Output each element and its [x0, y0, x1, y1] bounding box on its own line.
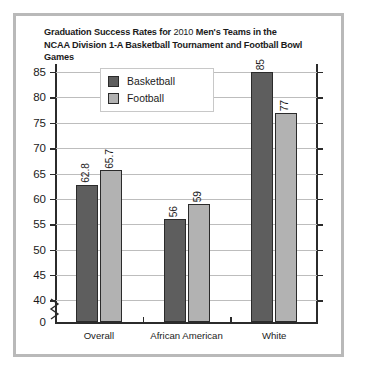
plot-area: 858075706560555045400Overall62.865.7Afri…: [55, 64, 318, 324]
legend-label-football: Football: [127, 93, 164, 104]
legend-item-football: Football: [101, 90, 213, 107]
y-axis-tick-label: 45: [33, 269, 46, 281]
bar-football-african-american: [188, 204, 210, 322]
bar-basketball-overall: [76, 185, 98, 323]
y-tick-left: [50, 199, 56, 200]
x-axis: [55, 322, 318, 324]
y-tick-right: [317, 174, 323, 175]
y-tick-left: [50, 97, 56, 98]
y-tick-left: [50, 123, 56, 124]
y-tick-right: [317, 148, 323, 149]
y-tick-right: [317, 224, 323, 225]
x-axis-tick-label: African American: [150, 330, 223, 341]
y-tick-left: [50, 250, 56, 251]
y-tick-right: [317, 300, 323, 301]
y-tick-right: [317, 199, 323, 200]
y-axis-tick-label: 75: [33, 117, 46, 129]
y-axis-tick-label: 40: [33, 294, 46, 306]
y-tick-right: [317, 72, 323, 73]
bar-football-white: [275, 113, 297, 323]
y-tick-left: [50, 224, 56, 225]
bar-value-label: 65.7: [105, 149, 115, 169]
y-tick-right: [317, 275, 323, 276]
bar-value-label: 62.8: [81, 163, 91, 183]
y-axis-tick-label: 70: [33, 142, 46, 154]
chart-title: Graduation Success Rates for 2010 Men's …: [44, 26, 334, 64]
chart-title-line1-part3: Men's Teams in the: [193, 27, 276, 37]
y-axis-tick-label: 85: [33, 66, 46, 78]
y-tick-left: [50, 300, 56, 301]
bar-value-label: 59: [193, 191, 203, 202]
y-axis-tick-label: 80: [33, 91, 46, 103]
y-axis-tick-label: 55: [33, 218, 46, 230]
y-tick-left: [50, 148, 56, 149]
x-axis-separator-tick: [230, 317, 231, 324]
legend-label-basketball: Basketball: [127, 76, 175, 87]
legend-swatch-basketball: [108, 76, 119, 87]
y-tick-right: [317, 123, 323, 124]
y-axis-tick-label: 65: [33, 168, 46, 180]
chart-legend: Basketball Football: [100, 68, 214, 112]
bar-value-label: 85: [256, 59, 266, 70]
y-axis-left: [55, 64, 57, 324]
y-tick-left: [50, 275, 56, 276]
y-axis-tick-label: 60: [33, 193, 46, 205]
y-axis-tick-label: 50: [33, 244, 46, 256]
legend-item-basketball: Basketball: [101, 73, 213, 90]
chart-frame: Graduation Success Rates for 2010 Men's …: [13, 13, 344, 357]
bar-value-label: 77: [280, 100, 290, 111]
y-tick-left: [50, 174, 56, 175]
x-axis-separator-tick: [143, 317, 144, 324]
chart-title-year: 2010: [173, 27, 193, 37]
y-tick-left: [50, 72, 56, 73]
y-tick-right: [317, 250, 323, 251]
x-axis-tick-label: White: [262, 330, 287, 341]
bar-basketball-white: [251, 72, 273, 322]
bar-football-overall: [100, 170, 122, 322]
y-axis-zero-label: 0: [40, 316, 46, 328]
legend-swatch-football: [108, 93, 119, 104]
bar-value-label: 56: [169, 206, 179, 217]
x-axis-tick-label: Overall: [84, 330, 114, 341]
bar-basketball-african-american: [164, 219, 186, 322]
y-axis-right: [316, 64, 318, 324]
chart-title-line1-part1: Graduation Success Rates for: [44, 27, 173, 37]
y-tick-right: [317, 97, 323, 98]
